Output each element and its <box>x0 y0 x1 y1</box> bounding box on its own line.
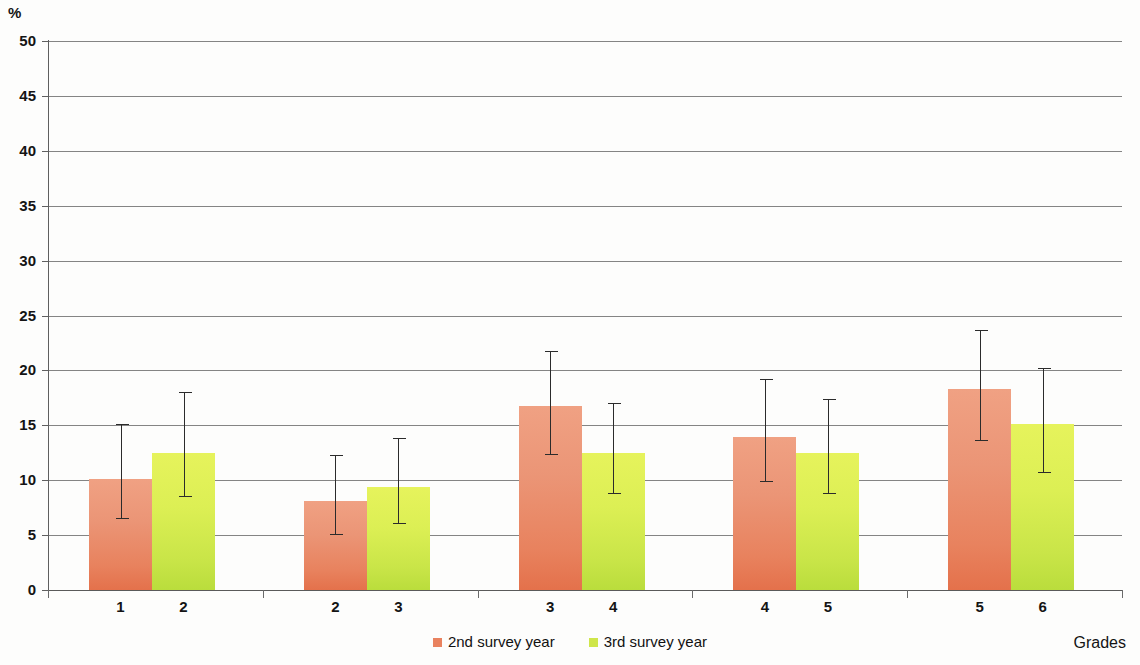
gridline <box>48 96 1122 97</box>
x-axis-label: 2 <box>315 598 355 615</box>
y-axis-label: 20 <box>2 361 36 378</box>
y-axis-tick <box>42 535 49 536</box>
legend-label: 3rd survey year <box>604 633 707 650</box>
y-axis-label: 40 <box>2 142 36 159</box>
gridline <box>48 316 1122 317</box>
error-bar-cap-top <box>393 438 406 439</box>
error-bar-cap-bottom <box>1038 472 1051 473</box>
error-bar-cap-bottom <box>975 440 988 441</box>
error-bar <box>335 455 336 535</box>
error-bar <box>550 351 551 455</box>
error-bar-cap-bottom <box>823 493 836 494</box>
x-axis-label: 5 <box>960 598 1000 615</box>
error-bar <box>613 403 614 494</box>
y-axis-label: 50 <box>2 32 36 49</box>
y-axis-label: 15 <box>2 416 36 433</box>
y-axis-tick <box>42 425 49 426</box>
y-axis-label: 30 <box>2 252 36 269</box>
chart-legend: 2nd survey year3rd survey year <box>0 633 1140 650</box>
error-bar <box>184 392 185 496</box>
y-axis-tick <box>42 206 49 207</box>
x-axis-label: 4 <box>593 598 633 615</box>
error-bar-cap-bottom <box>179 496 192 497</box>
y-axis-label: 0 <box>2 581 36 598</box>
error-bar-cap-top <box>330 455 343 456</box>
plot-area <box>48 41 1122 590</box>
y-axis-tick <box>42 316 49 317</box>
x-axis-line <box>48 590 1122 591</box>
y-axis-label: 45 <box>2 87 36 104</box>
y-axis-tick <box>42 261 49 262</box>
gridline <box>48 370 1122 371</box>
error-bar-cap-bottom <box>545 454 558 455</box>
error-bar-cap-bottom <box>116 518 129 519</box>
y-axis-tick <box>42 480 49 481</box>
x-axis-label: 1 <box>101 598 141 615</box>
x-axis-tick <box>48 590 49 598</box>
y-axis-tick <box>42 41 49 42</box>
gridline <box>48 41 1122 42</box>
x-axis-label: 4 <box>745 598 785 615</box>
x-axis-label: 6 <box>1023 598 1063 615</box>
error-bar <box>980 330 981 441</box>
error-bar <box>121 424 122 518</box>
error-bar-cap-top <box>179 392 192 393</box>
legend-item[interactable]: 2nd survey year <box>433 633 555 650</box>
y-axis-label: 10 <box>2 471 36 488</box>
x-axis-tick <box>692 590 693 598</box>
error-bar-cap-top <box>116 424 129 425</box>
gridline <box>48 261 1122 262</box>
error-bar-cap-top <box>545 351 558 352</box>
x-axis-label: 2 <box>164 598 204 615</box>
error-bar <box>765 379 766 482</box>
y-axis-tick <box>42 370 49 371</box>
y-axis-label: 35 <box>2 197 36 214</box>
error-bar-cap-bottom <box>330 534 343 535</box>
error-bar <box>398 438 399 524</box>
error-bar-cap-top <box>760 379 773 380</box>
y-axis-label: 25 <box>2 307 36 324</box>
x-axis-label: 3 <box>378 598 418 615</box>
x-axis-tick <box>907 590 908 598</box>
error-bar-cap-top <box>1038 368 1051 369</box>
legend-swatch-icon <box>589 638 598 647</box>
x-axis-label: 3 <box>530 598 570 615</box>
error-bar <box>1043 368 1044 472</box>
x-axis-label: 5 <box>808 598 848 615</box>
error-bar <box>828 399 829 495</box>
legend-swatch-icon <box>433 638 442 647</box>
error-bar-cap-top <box>975 330 988 331</box>
y-axis-label: 5 <box>2 526 36 543</box>
y-axis-title: % <box>8 4 21 21</box>
gridline <box>48 151 1122 152</box>
x-axis-title: Grades <box>1074 634 1126 652</box>
legend-item[interactable]: 3rd survey year <box>589 633 707 650</box>
y-axis-tick <box>42 151 49 152</box>
gridline <box>48 206 1122 207</box>
x-axis-tick <box>1122 590 1123 598</box>
error-bar-cap-top <box>823 399 836 400</box>
x-axis-tick <box>263 590 264 598</box>
y-axis-tick <box>42 96 49 97</box>
bar-chart: % 05101520253035404550 1223344556 Grades… <box>0 0 1140 665</box>
error-bar-cap-bottom <box>393 523 406 524</box>
x-axis-tick <box>478 590 479 598</box>
error-bar-cap-top <box>608 403 621 404</box>
error-bar-cap-bottom <box>608 493 621 494</box>
error-bar-cap-bottom <box>760 481 773 482</box>
legend-label: 2nd survey year <box>448 633 555 650</box>
